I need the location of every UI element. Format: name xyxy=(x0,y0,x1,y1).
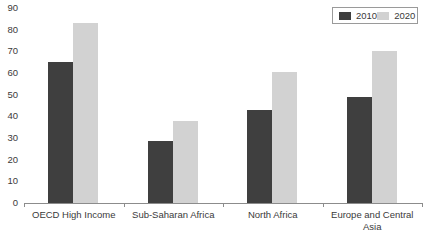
legend-swatch-icon xyxy=(339,12,351,20)
bar-2010-oecd-high-income xyxy=(48,62,73,203)
y-axis-tick-label: 50 xyxy=(7,90,18,100)
x-axis-category-label: North Africa xyxy=(223,209,323,221)
y-axis-tick-label: 10 xyxy=(7,177,18,187)
x-axis-tick xyxy=(223,203,224,207)
y-axis-tick-label: 30 xyxy=(7,133,18,143)
y-axis-tick-label: 40 xyxy=(7,112,18,122)
x-axis-category-label: OECD High Income xyxy=(24,209,124,221)
plot-area xyxy=(24,8,422,203)
x-axis-tick xyxy=(323,203,324,207)
bar-2010-europe-and-central-asia xyxy=(347,97,372,203)
bar-group xyxy=(24,8,124,203)
y-axis-tick-label: 80 xyxy=(7,25,18,35)
x-axis-category-label: Sub-Saharan Africa xyxy=(124,209,224,221)
chart-legend: 20102020 xyxy=(332,7,418,24)
legend-item-2020[interactable]: 2020 xyxy=(377,8,415,23)
y-axis-tick-label: 90 xyxy=(7,3,18,13)
bar-chart: 9080706050403020100 OECD High IncomeSub-… xyxy=(0,0,424,240)
x-axis-tick xyxy=(422,203,423,207)
legend-label: 2010 xyxy=(356,11,377,21)
legend-swatch-icon xyxy=(377,12,389,20)
y-axis-tick-label: 20 xyxy=(7,155,18,165)
bar-2010-north-africa xyxy=(247,110,272,203)
x-axis-category-label: Europe and Central Asia xyxy=(323,209,423,232)
legend-item-2010[interactable]: 2010 xyxy=(339,8,377,23)
bar-2020-oecd-high-income xyxy=(73,23,98,203)
x-axis-labels: OECD High IncomeSub-Saharan AfricaNorth … xyxy=(24,209,422,240)
x-axis-tick xyxy=(124,203,125,207)
x-axis-tick xyxy=(24,203,25,207)
bar-2020-europe-and-central-asia xyxy=(372,51,397,203)
y-axis-tick-label: 60 xyxy=(7,68,18,78)
bar-group xyxy=(124,8,224,203)
y-axis-tick-label: 70 xyxy=(7,47,18,57)
y-axis: 9080706050403020100 xyxy=(0,0,24,240)
bar-2020-north-africa xyxy=(272,72,297,203)
legend-label: 2020 xyxy=(394,11,415,21)
bar-2010-sub-saharan-africa xyxy=(148,141,173,203)
bar-2020-sub-saharan-africa xyxy=(173,121,198,203)
bar-group xyxy=(323,8,423,203)
y-axis-tick-label: 0 xyxy=(13,198,18,208)
bar-group xyxy=(223,8,323,203)
